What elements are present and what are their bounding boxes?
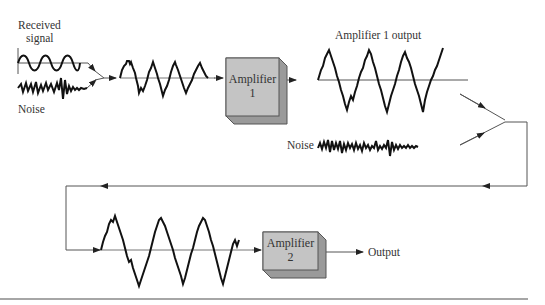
received-signal-label: Received signal [18,19,61,45]
amplifier-1-output-wave [318,48,468,112]
noise-input-label: Noise [18,103,45,116]
noise-input-wave [18,78,96,99]
amplifier-1-label: Amplifier 1 [226,72,279,100]
summing-junction-1 [95,71,116,80]
amplifier-2-label: Amplifier 2 [263,236,318,264]
output-label: Output [368,246,400,259]
amplifier-1-output-label: Amplifier 1 output [335,29,421,42]
amplifier-2-input-wave [100,216,261,286]
received-signal-wave [18,48,95,74]
noise-second-wave [318,140,418,156]
combined-signal-wave [120,61,223,96]
summing-junction-2 [66,94,527,250]
noise-second-label: Noise [287,139,314,152]
